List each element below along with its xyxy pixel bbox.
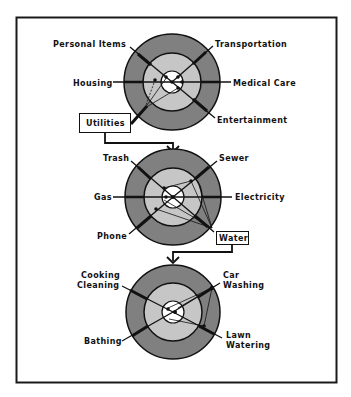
callout-utilities: Utilities bbox=[86, 119, 125, 128]
label-car: Car bbox=[223, 271, 239, 280]
callout-water: Water bbox=[219, 234, 248, 243]
node bbox=[154, 207, 158, 211]
node bbox=[173, 310, 177, 314]
label-electricity: Electricity bbox=[235, 193, 285, 202]
label-personal-items: Personal Items bbox=[53, 40, 126, 49]
label-trash: Trash bbox=[103, 154, 129, 163]
label-lawn: Lawn bbox=[226, 331, 251, 340]
label-sewer: Sewer bbox=[219, 154, 249, 163]
label-bathing: Bathing bbox=[84, 337, 122, 346]
label-watering: Watering bbox=[226, 341, 271, 350]
node bbox=[176, 86, 180, 90]
label-phone: Phone bbox=[97, 232, 127, 241]
nested-pie-diagram: Personal Items Transportation Housing Me… bbox=[0, 0, 351, 397]
label-washing: Washing bbox=[223, 281, 264, 290]
node bbox=[189, 179, 193, 183]
label-cleaning: Cleaning bbox=[77, 281, 120, 290]
label-transportation: Transportation bbox=[215, 40, 287, 49]
label-entertainment: Entertainment bbox=[217, 116, 288, 125]
diagram-household-expenses: Personal Items Transportation Housing Me… bbox=[53, 34, 296, 133]
label-medical-care: Medical Care bbox=[233, 79, 296, 88]
node bbox=[164, 75, 168, 79]
node bbox=[166, 307, 170, 311]
node bbox=[171, 195, 175, 199]
node bbox=[164, 195, 168, 199]
label-gas: Gas bbox=[94, 193, 112, 202]
node bbox=[162, 186, 166, 190]
node bbox=[176, 75, 180, 79]
node bbox=[170, 80, 174, 84]
node bbox=[180, 80, 184, 84]
node bbox=[153, 78, 157, 82]
node bbox=[210, 286, 214, 290]
node bbox=[202, 324, 206, 328]
label-cooking: Cooking bbox=[81, 271, 120, 280]
label-housing: Housing bbox=[73, 79, 113, 88]
